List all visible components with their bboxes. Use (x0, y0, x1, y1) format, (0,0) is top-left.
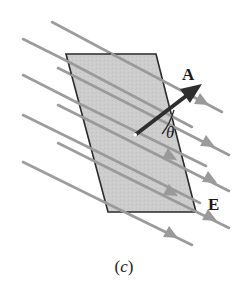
diagram-canvas (0, 0, 248, 296)
caption-letter: c (120, 257, 128, 276)
vector-A-label: A (182, 66, 194, 83)
caption-close-paren: ) (128, 257, 134, 276)
surface-plate (66, 54, 196, 212)
field-E-label: E (208, 196, 219, 213)
flux-diagram: A θ E (c) (0, 0, 248, 296)
figure-caption: (c) (0, 258, 248, 275)
angle-theta-label: θ (166, 124, 174, 141)
